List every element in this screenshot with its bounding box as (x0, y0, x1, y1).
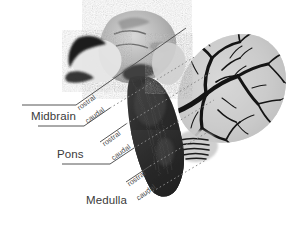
region-label-midbrain: Midbrain (31, 110, 76, 122)
superior-cerebellar-peduncle (152, 42, 186, 84)
region-label-medulla: Medulla (86, 194, 127, 206)
region-label-pons: Pons (57, 148, 84, 160)
anatomy-figure: Midbrain Pons Medulla rostral caudal ros… (0, 0, 289, 225)
